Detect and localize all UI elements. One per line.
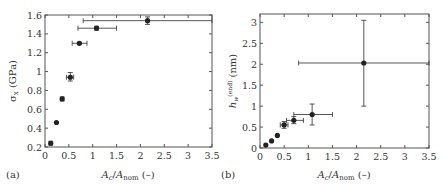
y-tick-label: 1.6: [27, 10, 42, 21]
data-point: [282, 122, 287, 127]
x-tick-label: 1.5: [325, 151, 340, 162]
panel-label: (a): [6, 169, 20, 180]
y-tick-label: 0.8: [27, 85, 42, 96]
data-point: [94, 26, 99, 31]
y-tick-label: 0: [251, 143, 257, 154]
figure: 00.511.522.533.50.20.40.60.811.21.41.6(a…: [0, 0, 445, 184]
data-point: [54, 120, 59, 125]
x-tick-label: 3: [185, 150, 191, 161]
data-point: [60, 96, 65, 101]
x-tick-label: 2.5: [157, 150, 172, 161]
x-tick-label: 0: [42, 150, 48, 161]
y-tick-label: 0.6: [27, 104, 42, 115]
x-tick-label: 2: [354, 151, 360, 162]
y-tick-label: 1: [36, 66, 42, 77]
data-point: [145, 18, 150, 23]
y-tick-label: 0.2: [27, 142, 42, 153]
x-tick-label: 2.5: [373, 151, 388, 162]
x-tick-label: 0.5: [277, 151, 292, 162]
data-point: [77, 41, 82, 46]
data-point: [48, 141, 53, 146]
y-tick-label: 1.2: [27, 47, 42, 58]
x-axis-label: Ac/Anom (–): [316, 169, 370, 182]
x-tick-label: 1.5: [109, 150, 124, 161]
data-point: [310, 112, 315, 117]
x-axis-label: Ac/Anom (–): [100, 169, 154, 182]
y-tick-label: 1: [251, 101, 257, 112]
data-point: [291, 118, 296, 123]
y-tick-label: 2: [251, 59, 257, 70]
chart-panel-b: 00.511.522.533.500.511.522.53(b)Ac/Anom …: [221, 14, 437, 182]
y-axis-label: σx (GPa): [7, 60, 20, 102]
y-tick-label: 0.4: [27, 123, 42, 134]
y-axis-label: hw(end) (nm): [226, 54, 239, 109]
x-tick-label: 3: [402, 151, 408, 162]
panel-label: (b): [221, 169, 235, 180]
chart-panel-a: 00.511.522.533.50.20.40.60.811.21.41.6(a…: [6, 10, 220, 183]
x-tick-label: 2: [137, 150, 143, 161]
y-tick-label: 2.5: [242, 38, 257, 49]
y-tick-label: 0.5: [242, 122, 257, 133]
x-tick-label: 0: [257, 151, 263, 162]
data-point: [68, 75, 73, 80]
data-point: [361, 60, 366, 65]
x-tick-label: 3.5: [421, 151, 436, 162]
data-point: [275, 133, 280, 138]
x-tick-label: 1: [305, 151, 311, 162]
y-tick-label: 1.5: [242, 80, 257, 91]
x-tick-label: 3.5: [204, 150, 219, 161]
y-tick-label: 1.4: [27, 28, 42, 39]
data-point: [263, 142, 268, 147]
x-tick-label: 0.5: [61, 150, 76, 161]
x-tick-label: 1: [90, 150, 96, 161]
data-point: [269, 138, 274, 143]
y-tick-label: 3: [251, 17, 257, 28]
